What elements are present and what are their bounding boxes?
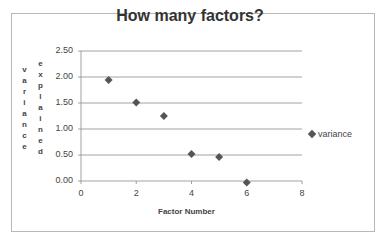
x-axis-label: Factor Number — [158, 207, 215, 216]
x-tick-label: 8 — [294, 188, 310, 198]
x-tick-label: 6 — [239, 188, 255, 198]
y-tick-label: 1.00 — [47, 123, 73, 133]
legend-label: variance — [318, 129, 352, 139]
diamond-marker-icon — [308, 130, 316, 138]
legend: variance — [309, 129, 352, 139]
x-tick-label: 2 — [128, 188, 144, 198]
data-point — [160, 112, 168, 120]
y-tick-label: 2.00 — [47, 71, 73, 81]
x-tick-label: 4 — [184, 188, 200, 198]
data-point — [188, 150, 196, 158]
y-tick-label: 0.50 — [47, 149, 73, 159]
y-tick-label: 1.50 — [47, 97, 73, 107]
x-tick-label: 0 — [73, 188, 89, 198]
y-tick-label: 2.50 — [47, 45, 73, 55]
data-point — [243, 179, 251, 187]
plot-area — [0, 0, 383, 240]
data-point — [132, 98, 140, 106]
y-tick-label: 0.00 — [47, 175, 73, 185]
data-point — [215, 153, 223, 161]
